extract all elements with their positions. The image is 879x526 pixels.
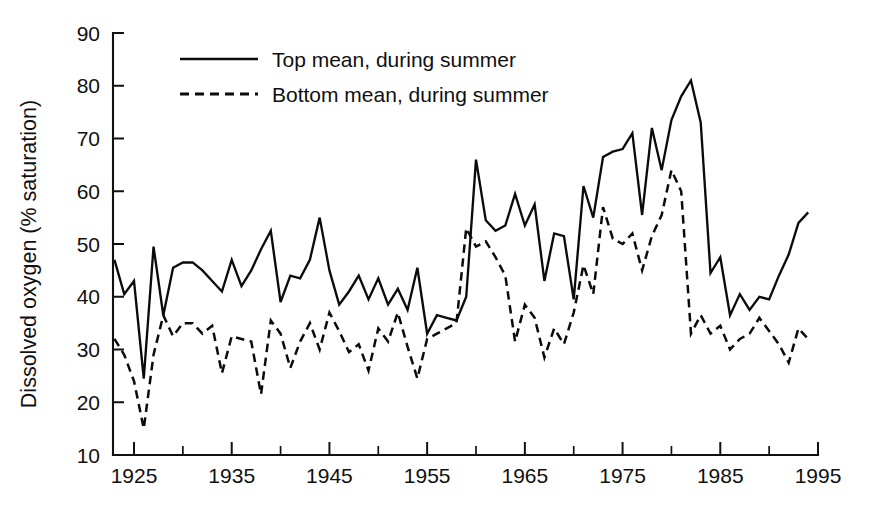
- x-tick-label-1995: 1995: [795, 464, 842, 487]
- y-tick-label-80: 80: [77, 74, 100, 97]
- x-tick-label-1975: 1975: [599, 464, 646, 487]
- y-tick-label-30: 30: [77, 338, 100, 361]
- line-chart: 102030405060708090 192519351945195519651…: [0, 0, 879, 526]
- x-tick-label-1955: 1955: [404, 464, 451, 487]
- y-tick-label-40: 40: [77, 285, 100, 308]
- y-tick-label-10: 10: [77, 444, 100, 467]
- y-tick-label-60: 60: [77, 180, 100, 203]
- y-tick-label-50: 50: [77, 233, 100, 256]
- y-axis: 102030405060708090: [77, 22, 124, 467]
- y-tick-label-70: 70: [77, 127, 100, 150]
- x-axis: 19251935194519551965197519851995: [111, 442, 842, 487]
- legend-label-bottom-mean: Bottom mean, during summer: [272, 83, 549, 106]
- x-tick-label-1945: 1945: [306, 464, 353, 487]
- y-tick-label-20: 20: [77, 391, 100, 414]
- y-axis-title-text: Dissolved oxygen (% saturation): [17, 100, 41, 408]
- x-tick-label-1935: 1935: [208, 464, 255, 487]
- x-tick-label-1925: 1925: [111, 464, 158, 487]
- x-tick-label-1965: 1965: [501, 464, 548, 487]
- data-series-group: [114, 80, 808, 428]
- series-line-bottom-mean: [114, 170, 808, 428]
- series-line-top-mean: [114, 80, 808, 378]
- x-tick-label-1985: 1985: [697, 464, 744, 487]
- chart-legend: Top mean, during summerBottom mean, duri…: [180, 48, 549, 106]
- y-axis-title: Dissolved oxygen (% saturation): [17, 100, 41, 408]
- legend-label-top-mean: Top mean, during summer: [272, 48, 516, 71]
- chart-figure: 102030405060708090 192519351945195519651…: [0, 0, 879, 526]
- y-tick-label-90: 90: [77, 22, 100, 45]
